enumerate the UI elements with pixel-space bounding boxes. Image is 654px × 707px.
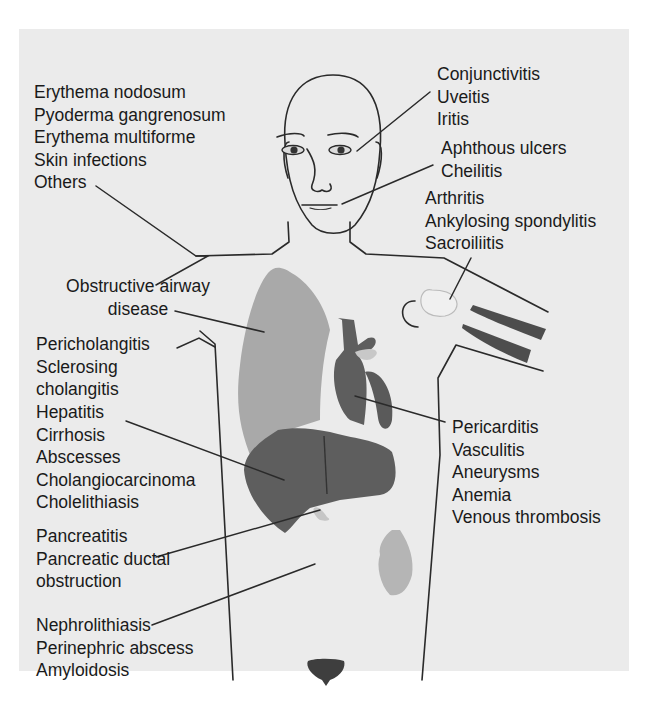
- label-line: Conjunctivitis: [437, 63, 540, 86]
- label-line: Skin infections: [34, 149, 226, 172]
- label-heart: Pericarditis Vasculitis Aneurysms Anemia…: [452, 416, 601, 529]
- label-line: Erythema multiforme: [34, 126, 226, 149]
- label-line: Pancreatitis: [36, 525, 170, 548]
- label-pancreas: Pancreatitis Pancreatic ductal obstructi…: [36, 525, 170, 593]
- label-line: Vasculitis: [452, 439, 601, 462]
- eyes-icon: [282, 146, 351, 155]
- label-line: obstruction: [36, 570, 170, 593]
- leader-pancreas: [156, 510, 320, 557]
- label-line: Obstructive airway: [58, 275, 218, 298]
- label-eye: Conjunctivitis Uveitis Iritis: [437, 63, 540, 131]
- label-line: Pericholangitis: [36, 333, 150, 356]
- heart-icon: [334, 318, 376, 425]
- label-lung: Obstructive airway disease: [58, 275, 218, 320]
- label-line: Ankylosing spondylitis: [425, 210, 596, 233]
- label-line: Sacroiliitis: [425, 232, 596, 255]
- label-line: Aneurysms: [452, 461, 601, 484]
- label-line: Sclerosing: [36, 356, 150, 379]
- label-line: Erythema nodosum: [34, 81, 226, 104]
- label-line: Pancreatic ductal: [36, 548, 170, 571]
- label-line: Aphthous ulcers: [441, 137, 567, 160]
- label-line: Perinephric abscess: [36, 637, 194, 660]
- label-line: disease: [58, 298, 218, 321]
- label-line: Cholelithiasis: [36, 491, 196, 514]
- leader-mouth: [342, 165, 433, 204]
- label-line: Iritis: [437, 108, 540, 131]
- label-line: Amyloidosis: [36, 659, 194, 682]
- label-line: cholangitis: [36, 378, 150, 401]
- kidney-icon: [378, 530, 412, 595]
- leader-heart: [355, 396, 445, 422]
- joint-icon: [421, 290, 457, 317]
- label-skin: Erythema nodosum Pyoderma gangrenosum Er…: [34, 81, 226, 194]
- label-line: Anemia: [452, 484, 601, 507]
- label-line: Uveitis: [437, 86, 540, 109]
- label-liver: Hepatitis Cirrhosis Abscesses Cholangioc…: [36, 401, 196, 514]
- label-line: Others: [34, 171, 226, 194]
- label-line: Abscesses: [36, 446, 196, 469]
- label-kidney: Nephrolithiasis Perinephric abscess Amyl…: [36, 614, 194, 682]
- label-line: Cheilitis: [441, 160, 567, 183]
- label-mouth: Aphthous ulcers Cheilitis: [441, 137, 567, 182]
- leader-skin: [96, 186, 208, 285]
- label-line: Pericarditis: [452, 416, 601, 439]
- pancreas-icon: [313, 507, 329, 521]
- leader-eye: [357, 92, 430, 151]
- bladder-icon: [307, 659, 344, 686]
- label-line: Cholangiocarcinoma: [36, 469, 196, 492]
- label-line: Venous thrombosis: [452, 506, 601, 529]
- label-biliary: Pericholangitis Sclerosing cholangitis: [36, 333, 150, 401]
- leader-joint: [450, 258, 471, 299]
- label-joint: Arthritis Ankylosing spondylitis Sacroil…: [425, 187, 596, 255]
- label-line: Arthritis: [425, 187, 596, 210]
- label-line: Nephrolithiasis: [36, 614, 194, 637]
- label-line: Pyoderma gangrenosum: [34, 104, 226, 127]
- label-line: Cirrhosis: [36, 424, 196, 447]
- label-line: Hepatitis: [36, 401, 196, 424]
